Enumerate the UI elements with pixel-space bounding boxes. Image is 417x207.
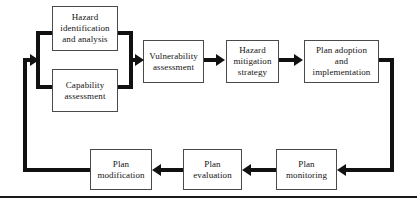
node-plan-adoption-line1: Plan adoption xyxy=(306,45,377,56)
node-plan-adoption-line2: and xyxy=(306,56,377,67)
node-hazard-identification[interactable]: Hazard identification and analysis xyxy=(52,6,118,51)
edge-modification-to-left-riser xyxy=(23,168,92,172)
node-plan-evaluation[interactable]: Plan evaluation xyxy=(183,149,242,190)
node-plan-modification-line1: Plan xyxy=(92,159,150,170)
edge-right-descender xyxy=(390,58,394,172)
bottom-divider-rule xyxy=(0,196,417,198)
node-capability-assessment-line1: Capability xyxy=(54,80,116,91)
edge-right-to-plan-monitoring xyxy=(345,168,394,172)
node-plan-evaluation-line2: evaluation xyxy=(185,170,240,181)
node-hazard-mitigation-strategy[interactable]: Hazard mitigation strategy xyxy=(226,40,279,83)
node-plan-adoption-line3: implementation xyxy=(306,67,377,78)
arrowhead-to-hazard-mitigation-strategy xyxy=(216,54,225,66)
node-vulnerability-assessment-line1: Vulnerability xyxy=(145,51,202,62)
arrowhead-feedback-into-inputs xyxy=(30,54,39,66)
node-plan-modification-line2: modification xyxy=(92,170,150,181)
node-plan-modification[interactable]: Plan modification xyxy=(90,149,152,190)
arrowhead-to-plan-modification xyxy=(152,164,161,176)
edge-monitoring-to-evaluation xyxy=(250,168,276,172)
node-hazard-identification-line2: identification xyxy=(54,23,116,34)
flowchart-diagram: Hazard identification and analysis Capab… xyxy=(0,0,417,207)
node-hazard-mitigation-strategy-line3: strategy xyxy=(228,67,277,78)
node-hazard-identification-line3: and analysis xyxy=(54,34,116,45)
arrowhead-to-vulnerability-assessment xyxy=(135,54,144,66)
edge-evaluation-to-modification xyxy=(160,168,183,172)
arrowhead-to-plan-monitoring xyxy=(337,164,346,176)
node-plan-evaluation-line1: Plan xyxy=(185,159,240,170)
node-plan-adoption[interactable]: Plan adoption and implementation xyxy=(304,40,379,83)
arrowhead-to-plan-adoption xyxy=(294,54,303,66)
node-vulnerability-assessment-line2: assessment xyxy=(145,62,202,73)
node-hazard-mitigation-strategy-line2: mitigation xyxy=(228,56,277,67)
arrowhead-to-plan-evaluation xyxy=(242,164,251,176)
node-capability-assessment[interactable]: Capability assessment xyxy=(52,69,118,112)
node-hazard-mitigation-strategy-line1: Hazard xyxy=(228,45,277,56)
node-capability-assessment-line2: assessment xyxy=(54,91,116,102)
node-plan-monitoring-line2: monitoring xyxy=(278,170,335,181)
edge-left-vertical-riser xyxy=(23,58,27,172)
node-hazard-identification-line1: Hazard xyxy=(54,12,116,23)
node-plan-monitoring-line1: Plan xyxy=(278,159,335,170)
node-vulnerability-assessment[interactable]: Vulnerability assessment xyxy=(143,40,204,83)
node-plan-monitoring[interactable]: Plan monitoring xyxy=(276,149,337,190)
